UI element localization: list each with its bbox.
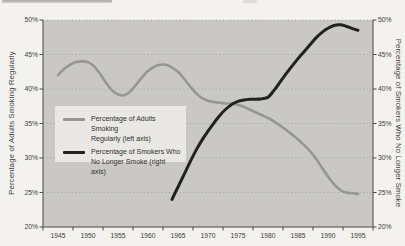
right-axis-title: Percentage of Smokers Who No Longer Smok… (394, 39, 403, 208)
right-axis-tick-label-35pct: 35% (378, 120, 392, 127)
left-axis-tick-label-25pct: 25% (24, 189, 38, 196)
right-axis-tick-label-40pct: 40% (378, 85, 392, 92)
legend-label-no-longer: Percentage of Smokers Who No Longer Smok… (91, 147, 182, 176)
legend-label-no-longer-line2: No Longer Smoke (right axis) (91, 157, 182, 177)
x-axis-tick-label-1990: 1990 (320, 232, 335, 239)
x-axis-tick-label-1950: 1950 (80, 232, 95, 239)
legend: Percentage of Adults Smoking Regularly (… (55, 106, 186, 162)
left-axis-tick-label-45pct: 45% (24, 51, 38, 58)
left-axis-tick-label-20pct: 20% (24, 223, 38, 230)
right-axis-tick-label-45pct: 45% (378, 51, 392, 58)
legend-label-adults-line2: Regularly (left axis) (91, 134, 182, 144)
left-axis-tick-label-35pct: 35% (24, 120, 38, 127)
legend-swatch-adults (63, 118, 85, 121)
right-axis-tick-label-50pct: 50% (378, 16, 392, 23)
legend-label-no-longer-line1: Percentage of Smokers Who (91, 147, 182, 157)
chart-screenshot: 50%45%40%35%30%25%20%50%45%40%35%30%25%2… (0, 0, 405, 246)
legend-item-adults-smoking: Percentage of Adults Smoking Regularly (… (63, 114, 182, 143)
left-axis-title: Percentage of Adults Smoking Regularly (7, 51, 16, 195)
x-axis-tick-label-1960: 1960 (140, 232, 155, 239)
x-axis-tick-label-1975: 1975 (230, 232, 245, 239)
left-axis-tick-label-50pct: 50% (24, 16, 38, 23)
x-axis-tick-label-1945: 1945 (50, 232, 65, 239)
x-axis-tick-label-1965: 1965 (170, 232, 185, 239)
x-axis-tick-label-1985: 1985 (290, 232, 305, 239)
x-axis-tick-label-1955: 1955 (110, 232, 125, 239)
x-axis-tick-label-1995: 1995 (350, 232, 365, 239)
right-axis-tick-label-20pct: 20% (378, 223, 392, 230)
left-axis-tick-label-40pct: 40% (24, 85, 38, 92)
legend-label-adults: Percentage of Adults Smoking Regularly (… (91, 114, 182, 143)
right-axis-tick-label-30pct: 30% (378, 154, 392, 161)
legend-label-adults-line1: Percentage of Adults Smoking (91, 114, 182, 134)
x-axis-tick-label-1970: 1970 (200, 232, 215, 239)
x-axis-tick-label-1980: 1980 (260, 232, 275, 239)
right-axis-tick-label-25pct: 25% (378, 189, 392, 196)
left-axis-tick-label-30pct: 30% (24, 154, 38, 161)
legend-swatch-no-longer (63, 151, 85, 154)
legend-item-no-longer-smoke: Percentage of Smokers Who No Longer Smok… (63, 147, 182, 176)
